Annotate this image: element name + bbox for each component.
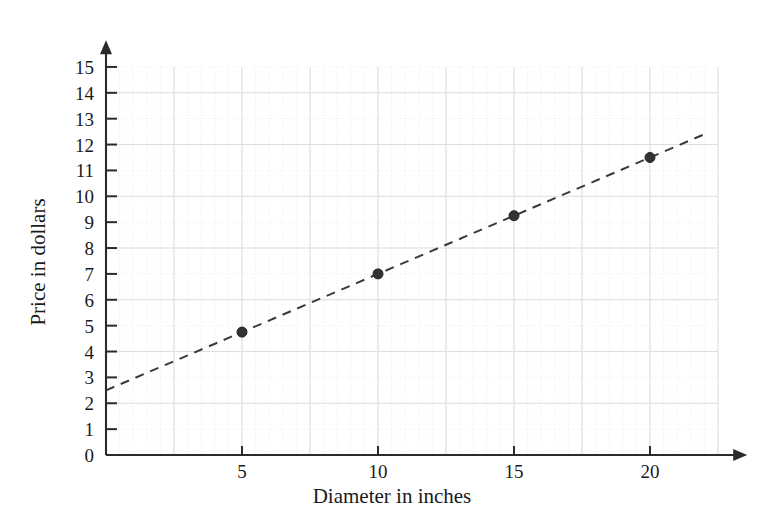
y-tick-label: 6 (85, 290, 95, 311)
y-tick-label: 9 (85, 212, 95, 233)
y-tick-label: 4 (85, 342, 95, 363)
data-point (509, 211, 519, 221)
plot-background (0, 0, 780, 527)
x-tick-label: 20 (641, 461, 660, 482)
scatter-plot: 51015200123456789101112131415 Diameter i… (0, 0, 780, 527)
x-tick-label: 10 (369, 461, 388, 482)
x-tick-label: 5 (237, 461, 247, 482)
data-point (373, 269, 383, 279)
y-tick-label: 14 (75, 83, 95, 104)
y-tick-label: 12 (75, 135, 94, 156)
y-tick-label: 0 (85, 445, 95, 466)
x-tick-label: 15 (505, 461, 524, 482)
y-tick-label: 5 (85, 316, 95, 337)
y-tick-label: 8 (85, 238, 95, 259)
y-tick-label: 10 (75, 186, 94, 207)
y-tick-label: 13 (75, 109, 94, 130)
y-axis-title: Price in dollars (26, 198, 50, 325)
y-tick-label: 3 (85, 367, 95, 388)
y-tick-label: 7 (85, 264, 95, 285)
chart-container: 51015200123456789101112131415 Diameter i… (0, 0, 780, 527)
data-point (645, 152, 655, 162)
y-tick-label: 15 (75, 57, 94, 78)
y-tick-label: 2 (85, 393, 95, 414)
y-tick-label: 11 (76, 160, 94, 181)
data-point (237, 327, 247, 337)
x-axis-title: Diameter in inches (313, 484, 472, 508)
y-tick-label: 1 (85, 419, 95, 440)
